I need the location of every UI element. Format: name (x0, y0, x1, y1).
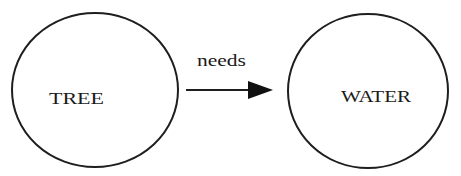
concept-diagram: TREE needs WATER (0, 0, 461, 176)
node-water: WATER (288, 14, 448, 168)
arrowhead-icon (248, 81, 273, 99)
node-tree-label: TREE (49, 89, 104, 108)
node-water-label: WATER (341, 87, 412, 106)
node-tree: TREE (12, 13, 178, 167)
edge-needs: needs (186, 51, 273, 99)
edge-needs-label: needs (197, 51, 246, 70)
